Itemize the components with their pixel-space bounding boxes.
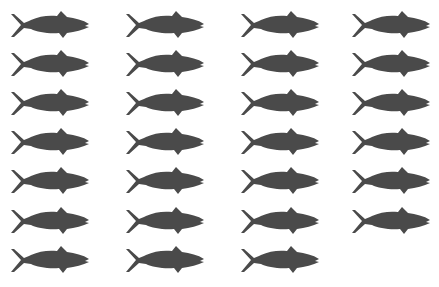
fish-icon xyxy=(239,127,321,159)
fish-icon xyxy=(124,10,206,42)
fish-icon xyxy=(350,127,432,159)
fish-icon xyxy=(9,49,91,81)
fish-icon xyxy=(9,88,91,120)
fish-icon xyxy=(239,88,321,120)
fish-icon xyxy=(9,10,91,42)
fish-icon xyxy=(239,10,321,42)
fish-icon xyxy=(350,49,432,81)
fish-icon xyxy=(9,245,91,277)
fish-icon xyxy=(350,88,432,120)
fish-icon xyxy=(239,166,321,198)
fish-icon xyxy=(124,206,206,238)
fish-icon xyxy=(9,206,91,238)
caption xyxy=(185,280,255,287)
fish-icon xyxy=(350,10,432,42)
fish-icon xyxy=(239,49,321,81)
fish-icon xyxy=(350,166,432,198)
fish-icon xyxy=(124,88,206,120)
fish-icon xyxy=(239,245,321,277)
fish-icon xyxy=(124,49,206,81)
fish-icon xyxy=(124,166,206,198)
fish-icon xyxy=(350,206,432,238)
fish-icon xyxy=(9,166,91,198)
fish-icon xyxy=(9,127,91,159)
fish-icon xyxy=(124,127,206,159)
fish-icon xyxy=(239,206,321,238)
fish-icon xyxy=(124,245,206,277)
